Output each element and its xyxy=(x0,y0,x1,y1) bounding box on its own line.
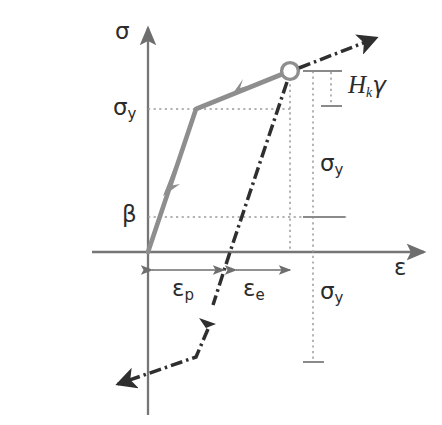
hardening-gamma: γ xyxy=(372,72,386,98)
sigma-y-lower-label: σy xyxy=(320,280,343,306)
loading-path xyxy=(148,63,298,252)
sigma-y-upper-label: σy xyxy=(320,152,343,178)
continued-loading-dashdot xyxy=(299,38,376,68)
sigma-y-upper-sub: y xyxy=(335,161,344,179)
y-axis-label: σ xyxy=(115,20,130,43)
sigma-y-axis-label: σy xyxy=(113,96,136,122)
sigma-y-upper-base: σ xyxy=(320,150,335,176)
unloading-dashdot xyxy=(213,82,287,305)
sigma-y-lower-base: σ xyxy=(320,278,335,304)
epsilon-e-sub: e xyxy=(255,286,264,304)
hardening-label: Hkγ xyxy=(348,72,386,100)
diagram-canvas xyxy=(0,0,442,425)
epsilon-e-base: ε xyxy=(243,275,255,301)
reverse-yield-dashdot xyxy=(118,329,208,384)
beta-label: β xyxy=(122,203,137,226)
sigma-y-axis-base: σ xyxy=(113,94,128,120)
epsilon-p-sub: p xyxy=(184,286,194,304)
loading-path-line xyxy=(148,71,290,252)
epsilon-p-base: ε xyxy=(172,275,184,301)
sigma-y-axis-sub: y xyxy=(128,105,137,123)
hardening-base: H xyxy=(348,71,366,98)
guide-tick-caps xyxy=(303,71,345,362)
sigma-y-lower-sub: y xyxy=(335,289,344,307)
epsilon-p-label: εp xyxy=(172,277,194,303)
stress-strain-diagram: σ ε σy β Hkγ σy σy εp εe xyxy=(0,0,442,425)
epsilon-e-label: εe xyxy=(243,277,265,303)
current-state-marker-icon xyxy=(282,63,299,80)
x-axis-label: ε xyxy=(394,256,406,279)
